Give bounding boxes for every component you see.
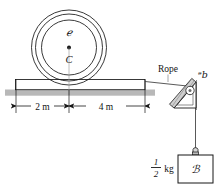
- mechanics-figure: ℯ C 2 m 4 m Rope: [0, 0, 219, 190]
- rope-label: Rope: [158, 64, 178, 74]
- wheel-body-label: ℯ: [66, 26, 74, 38]
- pulley-assembly: [170, 78, 197, 110]
- dimension-label-left: 2 m: [35, 102, 50, 112]
- mass-label-group: 1 2 kg: [151, 157, 174, 179]
- pulley-axle: [189, 89, 192, 92]
- dimension-label-right: 4 m: [99, 102, 114, 112]
- pulley-label: ᵊb: [198, 69, 208, 80]
- rope-horizontal-segment: [145, 82, 192, 87]
- ground-surface: [5, 90, 155, 96]
- mass-denominator: 2: [154, 169, 159, 179]
- wheel-center-label: C: [65, 54, 73, 65]
- mass-numerator: 1: [154, 157, 159, 167]
- block-label: ℬ: [191, 163, 201, 176]
- figure-container: ℯ C 2 m 4 m Rope: [0, 0, 219, 190]
- mass-unit-label: kg: [164, 164, 174, 174]
- plank: [16, 80, 146, 90]
